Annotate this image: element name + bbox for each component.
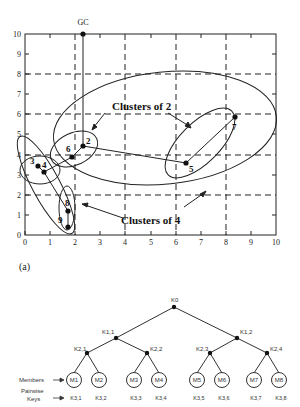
svg-text:9: 9 xyxy=(58,215,63,225)
svg-text:2: 2 xyxy=(86,136,91,146)
svg-text:4: 4 xyxy=(123,238,127,247)
node-2 xyxy=(80,143,85,148)
svg-text:7: 7 xyxy=(232,122,237,132)
svg-text:Keys: Keys xyxy=(27,396,40,402)
svg-text:0: 0 xyxy=(17,231,21,240)
node-3 xyxy=(35,163,40,168)
svg-text:K3,1: K3,1 xyxy=(70,395,81,401)
svg-text:K2,3: K2,3 xyxy=(196,346,209,352)
svg-text:M6: M6 xyxy=(218,377,227,383)
svg-text:6: 6 xyxy=(174,238,178,247)
clustering-diagram: 0 1 2 3 4 5 6 7 8 9 10 0 1 2 3 4 5 6 7 8… xyxy=(0,0,300,407)
svg-text:M7: M7 xyxy=(250,377,259,383)
clusters-of-2-label: Clusters of 2 xyxy=(112,100,172,112)
svg-text:Members: Members xyxy=(19,377,44,383)
svg-text:10: 10 xyxy=(272,238,280,247)
node-4 xyxy=(41,169,46,174)
svg-text:M8: M8 xyxy=(275,377,284,383)
gc-label: GC xyxy=(77,18,88,27)
svg-text:9: 9 xyxy=(249,238,253,247)
svg-text:2: 2 xyxy=(17,191,21,200)
svg-text:5: 5 xyxy=(189,164,194,174)
member-labels: M1 M2 M3 M4 M5 M6 M7 M8 xyxy=(70,377,284,383)
svg-text:2: 2 xyxy=(73,238,77,247)
node-labels: 2 3 4 5 6 7 8 9 xyxy=(30,122,237,225)
axis-ticks xyxy=(25,34,276,235)
svg-text:M1: M1 xyxy=(70,377,79,383)
svg-text:K3,8: K3,8 xyxy=(275,395,286,401)
svg-text:K3,7: K3,7 xyxy=(250,395,261,401)
svg-text:1: 1 xyxy=(17,211,21,220)
tree-edges xyxy=(74,307,279,373)
svg-text:8: 8 xyxy=(224,238,228,247)
svg-text:M4: M4 xyxy=(155,377,164,383)
svg-text:M2: M2 xyxy=(95,377,104,383)
svg-text:6: 6 xyxy=(17,110,21,119)
svg-text:K1,2: K1,2 xyxy=(240,329,253,335)
plot-frame xyxy=(25,34,276,235)
svg-text:K2,1: K2,1 xyxy=(74,346,87,352)
svg-text:K0: K0 xyxy=(171,297,179,303)
gc-node xyxy=(80,31,85,36)
svg-text:K3,2: K3,2 xyxy=(95,395,106,401)
pairwise-key-labels: K3,1 K3,2 K3,3 K3,4 K3,5 K3,6 K3,7 K3,8 xyxy=(70,395,286,401)
tree-legend: Members Pairwise Keys xyxy=(19,377,44,402)
svg-text:1: 1 xyxy=(48,238,52,247)
svg-text:8: 8 xyxy=(65,198,70,208)
node-8 xyxy=(65,208,70,213)
svg-text:5: 5 xyxy=(149,238,153,247)
svg-text:M5: M5 xyxy=(193,377,202,383)
legend-arrows xyxy=(53,378,64,400)
svg-text:7: 7 xyxy=(199,238,203,247)
svg-text:K3,5: K3,5 xyxy=(193,395,204,401)
x-tick-labels: 0 1 2 3 4 5 6 7 8 9 10 xyxy=(23,238,280,247)
svg-text:K3,6: K3,6 xyxy=(218,395,229,401)
svg-text:K2,2: K2,2 xyxy=(150,346,163,352)
cluster-plot: 0 1 2 3 4 5 6 7 8 9 10 0 1 2 3 4 5 6 7 8… xyxy=(8,18,282,273)
grid-lines xyxy=(25,34,276,235)
svg-text:Pairwise: Pairwise xyxy=(21,388,44,394)
svg-text:4: 4 xyxy=(42,160,47,170)
svg-text:M3: M3 xyxy=(130,377,139,383)
svg-text:8: 8 xyxy=(17,70,21,79)
svg-text:7: 7 xyxy=(17,90,21,99)
svg-text:6: 6 xyxy=(66,144,71,154)
panel-label: (a) xyxy=(19,261,30,273)
svg-text:0: 0 xyxy=(23,238,27,247)
clusters-of-4-label: Clusters of 4 xyxy=(121,214,181,226)
node-7 xyxy=(232,114,237,119)
node-6 xyxy=(69,154,74,159)
node-9 xyxy=(65,224,70,229)
svg-text:K1,1: K1,1 xyxy=(102,329,115,335)
node-5 xyxy=(183,160,188,165)
y-tick-labels: 0 1 2 3 4 5 6 7 8 9 10 xyxy=(13,30,21,240)
annotation-arrows xyxy=(82,113,206,218)
key-tree: K0 K1,1 K1,2 K2,1 K2,2 K2,3 K2,4 M1 M2 M… xyxy=(19,297,287,402)
svg-text:K3,3: K3,3 xyxy=(130,395,141,401)
svg-text:10: 10 xyxy=(13,30,21,39)
svg-text:3: 3 xyxy=(30,156,35,166)
svg-text:K2,4: K2,4 xyxy=(270,346,283,352)
svg-text:3: 3 xyxy=(98,238,102,247)
svg-text:9: 9 xyxy=(17,50,21,59)
svg-text:K3,4: K3,4 xyxy=(155,395,166,401)
